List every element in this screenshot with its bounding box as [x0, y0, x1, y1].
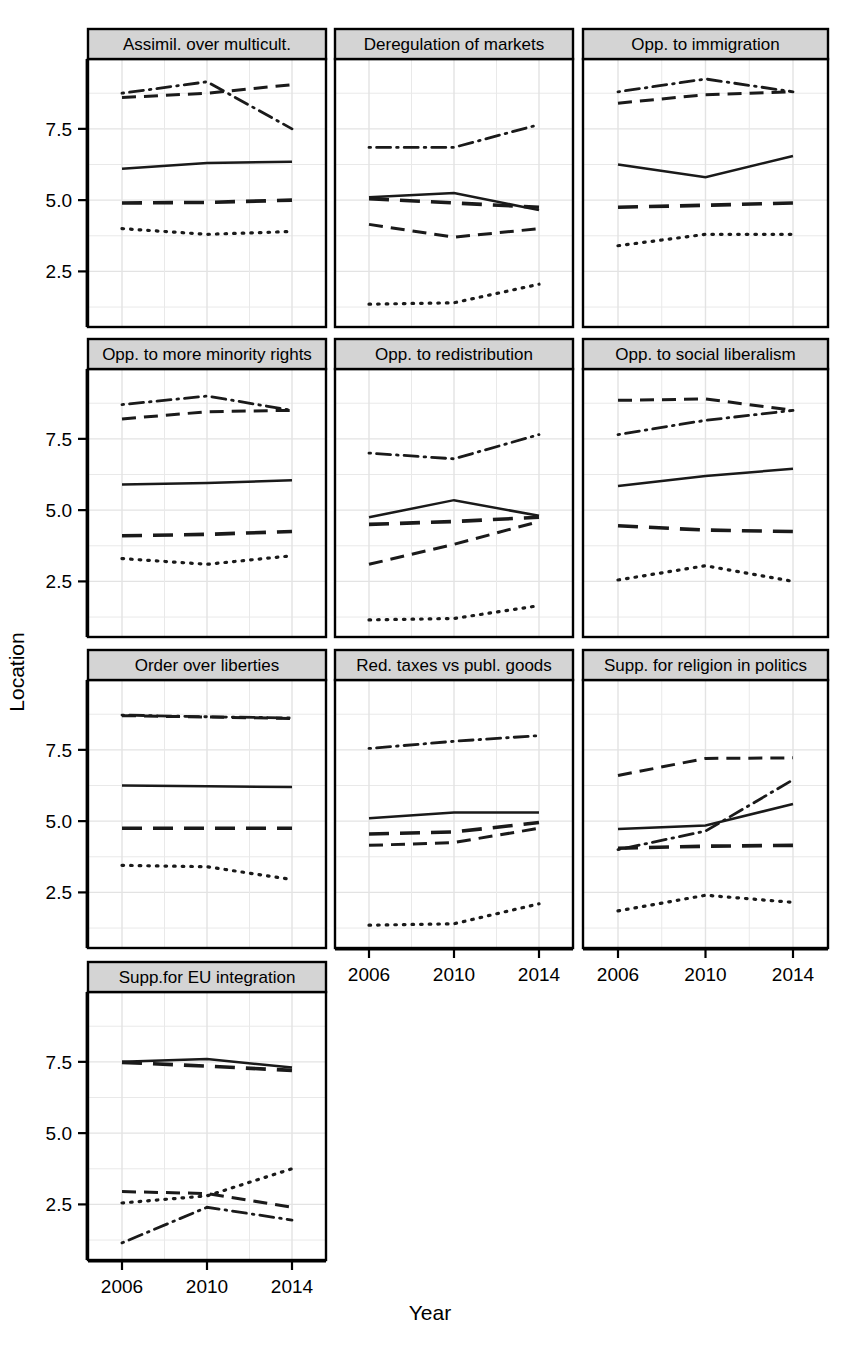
x-tick-label: 2010 [186, 1276, 228, 1297]
panel-1: Assimil. over multicult.2.55.07.5 [46, 29, 326, 327]
x-tick-label: 2014 [518, 964, 561, 985]
panel-strip-title: Opp. to redistribution [375, 345, 533, 364]
x-tick-label: 2014 [772, 964, 815, 985]
y-tick-label: 2.5 [46, 1194, 72, 1215]
x-tick-label: 2006 [597, 964, 639, 985]
panel-10: Supp.for EU integration2.55.07.520062010… [46, 962, 326, 1297]
panel-strip-title: Deregulation of markets [364, 35, 544, 54]
chart-canvas: Assimil. over multicult.2.55.07.5Deregul… [0, 0, 851, 1357]
panel-strip-title: Opp. to more minority rights [102, 345, 312, 364]
y-tick-label: 2.5 [46, 571, 72, 592]
y-tick-label: 2.5 [46, 882, 72, 903]
panel-strip-title: Supp.for EU integration [119, 968, 296, 987]
panel-strip-title: Assimil. over multicult. [123, 35, 291, 54]
y-tick-label: 5.0 [46, 1123, 72, 1144]
panel-6: Opp. to social liberalism [583, 339, 828, 637]
x-tick-label: 2006 [101, 1276, 143, 1297]
panel-3: Opp. to immigration [583, 29, 828, 327]
panel-strip-title: Order over liberties [135, 656, 280, 675]
x-axis-title: Year [409, 1301, 451, 1324]
panel-7: Order over liberties2.55.07.5 [46, 650, 326, 948]
panel-9: Supp. for religion in politics2006201020… [583, 650, 828, 985]
panel-strip-title: Opp. to immigration [631, 35, 779, 54]
x-axis: 200620102014 [583, 949, 828, 985]
y-axis-title: Location [5, 632, 28, 711]
y-tick-label: 7.5 [46, 119, 72, 140]
y-tick-label: 5.0 [46, 811, 72, 832]
panel-strip-title: Supp. for religion in politics [604, 656, 807, 675]
y-tick-label: 7.5 [46, 740, 72, 761]
panel-2: Deregulation of markets [335, 29, 573, 327]
y-tick-label: 5.0 [46, 190, 72, 211]
y-tick-label: 2.5 [46, 261, 72, 282]
small-multiples-figure: Assimil. over multicult.2.55.07.5Deregul… [0, 0, 851, 1357]
y-tick-label: 7.5 [46, 429, 72, 450]
panel-8: Red. taxes vs publ. goods200620102014 [335, 650, 573, 985]
y-tick-label: 7.5 [46, 1052, 72, 1073]
y-tick-label: 5.0 [46, 500, 72, 521]
panel-4: Opp. to more minority rights2.55.07.5 [46, 339, 326, 637]
y-axis: 2.55.07.5 [46, 369, 87, 637]
x-tick-label: 2006 [348, 964, 390, 985]
y-axis: 2.55.07.5 [46, 59, 87, 327]
x-axis: 200620102014 [88, 1261, 326, 1297]
x-axis: 200620102014 [335, 949, 573, 985]
x-tick-label: 2014 [271, 1276, 314, 1297]
y-axis: 2.55.07.5 [46, 992, 87, 1260]
panel-strip-title: Opp. to social liberalism [615, 345, 795, 364]
y-axis: 2.55.07.5 [46, 680, 87, 948]
panel-strip-title: Red. taxes vs publ. goods [356, 656, 552, 675]
panel-5: Opp. to redistribution [335, 339, 573, 637]
series-line-solid [122, 785, 292, 786]
x-tick-label: 2010 [433, 964, 475, 985]
x-tick-label: 2010 [684, 964, 726, 985]
